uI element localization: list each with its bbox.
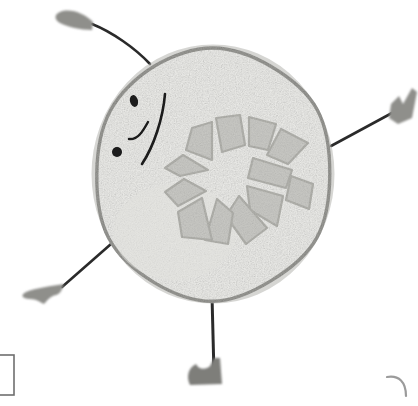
hand-lower-left xyxy=(23,284,64,304)
arm-upper-left-stroke xyxy=(92,24,150,64)
hand-right xyxy=(389,88,417,124)
arm-right-stroke xyxy=(331,113,392,146)
cucumber-slice-character-artwork xyxy=(0,0,418,406)
drawing-canvas: Hand-drawn cartoon cucumber slice charac… xyxy=(0,0,418,406)
corner-rectangle-artifact xyxy=(0,355,14,395)
foot xyxy=(188,358,222,385)
hand-upper-left xyxy=(56,11,94,30)
seed-segment-1 xyxy=(216,115,245,152)
corner-stroke-artifact xyxy=(387,377,406,396)
eye-lower xyxy=(112,147,122,157)
arm-lower-left-stroke xyxy=(62,244,111,287)
body-group xyxy=(95,48,331,301)
